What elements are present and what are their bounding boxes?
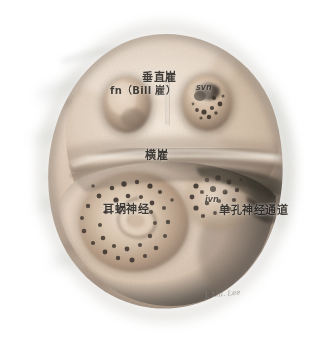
- illustration-canvas: [0, 0, 333, 342]
- illustration-figure: 垂直嵟 fn（Bill 嵟） svn 横嵟 耳蜗神经 ivn 单孔神经通道 J.…: [0, 0, 333, 342]
